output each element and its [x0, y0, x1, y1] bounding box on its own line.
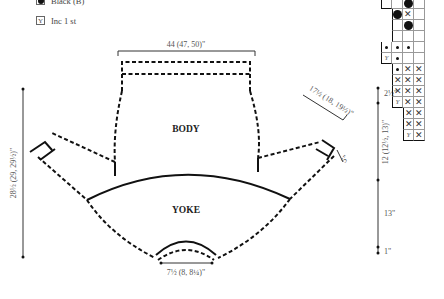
x-stitch-cell: ✕: [403, 86, 414, 97]
chart-cell: [392, 20, 403, 31]
chart-cell: [392, 0, 403, 9]
chart-cell: [392, 31, 403, 42]
body-label: BODY: [172, 124, 200, 134]
chart-cell: [403, 53, 414, 64]
chart-cell: [414, 42, 425, 53]
left-sleeve-bottom: [38, 157, 87, 200]
yoke-top-arc: [87, 175, 290, 200]
chart-cell: [392, 9, 403, 20]
chart-cell: [392, 64, 403, 75]
chart-cell: [403, 31, 414, 42]
yoke-left-edge: [87, 200, 155, 258]
small-dot-icon: [407, 46, 410, 49]
inc-stitch-icon: Y: [385, 54, 389, 62]
x-stitch-cell: ✕: [414, 86, 425, 97]
x-stitch-cell: ✕: [414, 97, 425, 108]
x-stitch-cell: ✕: [414, 75, 425, 86]
right-seg-2-label: 12 (12½, 13)": [381, 120, 390, 165]
chart-cell: [414, 53, 425, 64]
chart-cell: [392, 53, 403, 64]
chart-cell: [392, 42, 403, 53]
left-sleeve-top: [52, 133, 115, 162]
chart-cell: [403, 42, 414, 53]
cuff-label: 5": [339, 153, 350, 164]
inc-stitch-icon: Y: [396, 98, 400, 106]
schematic-drawing: BODY YOKE 44 (47, 50)" 7½ (8, 8¼)" 28½ (…: [0, 0, 444, 299]
small-dot-icon: [396, 46, 399, 49]
right-sleeve-top: [258, 142, 320, 158]
neck-dashed: [158, 250, 214, 260]
small-dot-icon: [396, 57, 399, 60]
chart-cell: [403, 0, 414, 9]
left-cuff: [30, 142, 55, 160]
large-dot-icon: [393, 10, 402, 19]
chart-cell: [414, 31, 425, 42]
body-left-side: [115, 91, 122, 162]
chart-cell: Y: [392, 97, 403, 108]
right-cuff: [316, 140, 334, 160]
body-top-outline: [122, 62, 250, 91]
chart-cell: [414, 20, 425, 31]
yoke-label: YOKE: [172, 205, 200, 215]
x-stitch-cell: ✕: [392, 75, 403, 86]
right-seg-3-label: 13": [384, 209, 395, 218]
small-dot-icon: [385, 46, 388, 49]
neck-solid-arc: [156, 242, 216, 256]
small-dot-icon: [396, 68, 399, 71]
x-stitch-cell: ✕: [403, 119, 414, 130]
x-stitch-cell: ✕: [414, 64, 425, 75]
inc-stitch-icon: Y: [407, 131, 411, 139]
x-stitch-cell: ✕: [403, 97, 414, 108]
x-stitch-cell: ✕: [414, 119, 425, 130]
chart-cell: [414, 0, 425, 9]
chart-cell: [414, 9, 425, 20]
body-width-label: 44 (47, 50)": [167, 40, 206, 49]
large-dot-icon: [404, 0, 413, 8]
neck-width-label: 7½ (8, 8¼)": [167, 268, 206, 277]
right-sleeve-bottom: [290, 156, 334, 199]
x-stitch-cell: ✕: [403, 9, 414, 20]
right-seg-4-label: 1": [384, 247, 391, 256]
x-stitch-cell: ✕: [414, 130, 425, 141]
chart-cell: Y: [403, 130, 414, 141]
x-stitch-cell: ✕: [392, 86, 403, 97]
x-stitch-cell: ✕: [403, 64, 414, 75]
x-stitch-cell: ✕: [403, 75, 414, 86]
chart-cell: [381, 42, 392, 53]
x-stitch-cell: ✕: [414, 108, 425, 119]
chart-cell: [403, 20, 414, 31]
body-width-dimension: [118, 51, 255, 56]
large-dot-icon: [404, 21, 413, 30]
x-stitch-cell: ✕: [403, 108, 414, 119]
total-length-label: 28½ (29, 29½)": [9, 148, 18, 199]
chart-cell: Y: [381, 53, 392, 64]
chart-cell: [381, 0, 392, 9]
yoke-right-edge: [218, 199, 290, 258]
body-right-side: [250, 91, 259, 158]
